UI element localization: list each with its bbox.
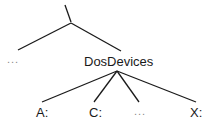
node-dosdevices: DosDevices bbox=[84, 55, 153, 68]
node-drive-c: C: bbox=[89, 106, 102, 119]
tree-diagram: \ ... DosDevices A: C: ... X: bbox=[0, 0, 214, 124]
node-drive-a: A: bbox=[36, 106, 48, 119]
node-drive-x: X: bbox=[190, 106, 202, 119]
node-ellipsis-level2: ... bbox=[134, 106, 146, 117]
root-backslash-stroke bbox=[65, 5, 71, 22]
node-ellipsis-level1: ... bbox=[7, 54, 19, 65]
edge-root-to-ellipsis bbox=[18, 23, 71, 50]
edge-root-to-dosdevices bbox=[71, 23, 121, 51]
edge-dosdevices-to-x bbox=[117, 71, 196, 102]
